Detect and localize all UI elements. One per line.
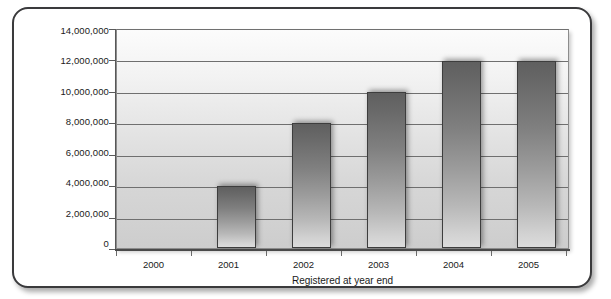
y-axis-label: 6,000,000 xyxy=(25,147,109,158)
x-axis-line xyxy=(115,249,570,251)
x-axis-label-2001: 2001 xyxy=(199,259,259,270)
plot-area xyxy=(116,29,569,249)
y-axis-label: 14,000,000 xyxy=(25,25,109,36)
y-axis-label: 4,000,000 xyxy=(25,177,109,188)
x-axis-tick xyxy=(491,251,492,256)
gridline xyxy=(117,61,568,62)
gridline xyxy=(117,124,568,125)
bar-2004[interactable] xyxy=(442,61,481,248)
y-axis-label: 10,000,000 xyxy=(25,86,109,97)
y-axis-label: 8,000,000 xyxy=(25,116,109,127)
x-axis-tick xyxy=(416,251,417,256)
x-axis-tick xyxy=(341,251,342,256)
x-axis-label-2002: 2002 xyxy=(274,259,334,270)
x-axis-tick xyxy=(191,251,192,256)
x-axis-tick xyxy=(266,251,267,256)
x-axis-title: Registered at year end xyxy=(116,275,569,286)
x-axis-tick xyxy=(116,251,117,256)
bar-2005[interactable] xyxy=(517,61,556,248)
bar-2002[interactable] xyxy=(292,123,331,248)
gridline xyxy=(117,219,568,220)
x-axis-tick xyxy=(566,251,567,256)
gridline xyxy=(117,156,568,157)
bar-2003[interactable] xyxy=(367,92,406,248)
x-axis-label-2004: 2004 xyxy=(424,259,484,270)
x-axis-label-2005: 2005 xyxy=(499,259,559,270)
bar-2001[interactable] xyxy=(217,186,256,248)
y-axis-label: 12,000,000 xyxy=(25,55,109,66)
gridline xyxy=(117,187,568,188)
y-axis-label: 2,000,000 xyxy=(25,208,109,219)
x-axis-label-2003: 2003 xyxy=(349,259,409,270)
gridline xyxy=(117,93,568,94)
x-axis-label-2000: 2000 xyxy=(124,259,184,270)
y-axis-label: 0 xyxy=(25,238,109,249)
chart-frame: 14,000,000 12,000,000 10,000,000 8,000,0… xyxy=(12,7,592,288)
